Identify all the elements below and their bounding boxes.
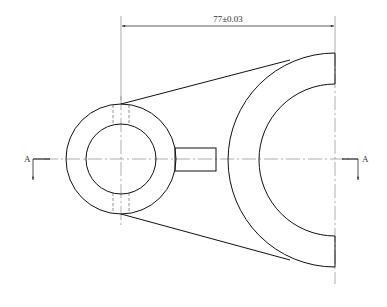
lower-tangent-line bbox=[121, 214, 290, 260]
large-arc bbox=[228, 53, 335, 267]
dimension-77: 77±0.03 bbox=[121, 14, 335, 100]
dimension-text: 77±0.03 bbox=[213, 14, 243, 24]
web-lines bbox=[121, 60, 290, 260]
section-label-right: A bbox=[362, 154, 369, 164]
lug bbox=[175, 148, 216, 171]
section-marker-right: A bbox=[342, 154, 369, 180]
large-inner-arc bbox=[259, 84, 335, 236]
upper-tangent-line bbox=[121, 60, 290, 104]
centerlines bbox=[44, 52, 350, 284]
section-label-left: A bbox=[24, 154, 31, 164]
technical-drawing: 77±0.03 A A bbox=[0, 0, 387, 307]
section-marker-left: A bbox=[24, 154, 50, 180]
